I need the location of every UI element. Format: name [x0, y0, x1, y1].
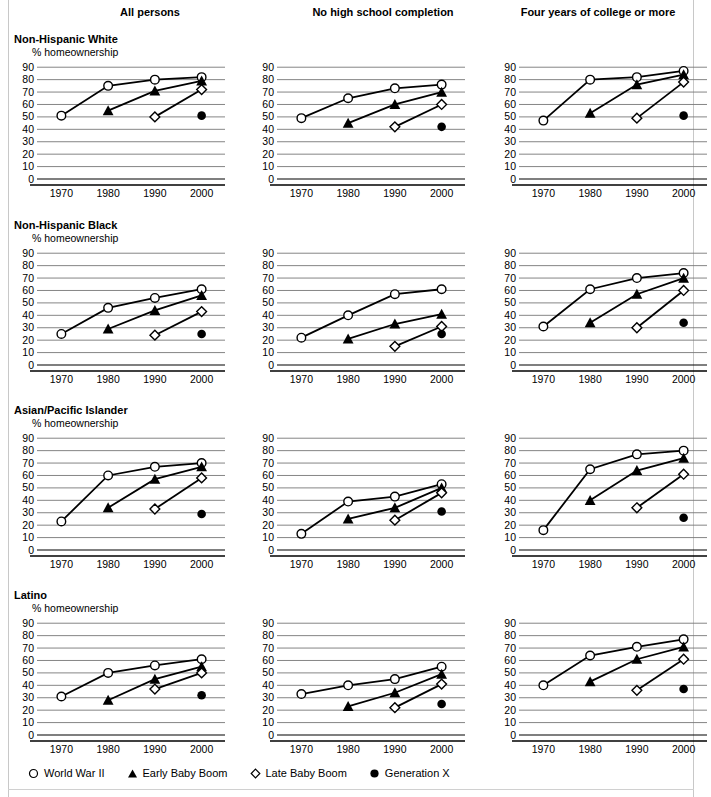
open-circle-marker	[151, 75, 160, 84]
x-tick-label: 1970	[532, 743, 556, 755]
open-circle-marker	[104, 304, 113, 313]
series-line-world-war-ii	[543, 639, 683, 685]
x-tick-label: 2000	[190, 558, 214, 570]
filled-circle-marker	[679, 513, 688, 522]
x-tick-label: 2000	[672, 373, 696, 385]
x-tick-label: 2000	[190, 743, 214, 755]
open-circle-marker	[297, 690, 306, 699]
x-tick-label: 2000	[190, 373, 214, 385]
open-circle-marker	[104, 82, 113, 91]
series-line-world-war-ii	[61, 289, 201, 334]
open-diamond-marker	[150, 330, 160, 340]
open-circle-marker	[297, 114, 306, 123]
legend-item-generation-x: Generation X	[369, 767, 450, 779]
y-tick-label: 0	[510, 544, 516, 556]
x-tick-label: 2000	[430, 558, 454, 570]
open-circle-marker	[344, 94, 353, 103]
open-circle-marker	[586, 651, 595, 660]
y-tick-label: 30	[262, 506, 274, 518]
legend-item-early-baby-boom: Early Baby Boom	[127, 767, 228, 779]
y-tick-label: 70	[262, 642, 274, 654]
panel-asian-pacific-islander-four-years-of-college-or-more: 01020304050607080901970198019902000	[490, 426, 711, 576]
y-tick-label: 10	[504, 531, 516, 543]
x-tick-label: 2000	[430, 743, 454, 755]
filled-circle-marker	[197, 111, 206, 120]
y-tick-label: 40	[22, 679, 34, 691]
y-tick-label: 70	[22, 457, 34, 469]
panel-asian-pacific-islander-no-high-school-completion: 01020304050607080901970198019902000	[248, 426, 473, 576]
filled-triangle-icon	[127, 768, 138, 779]
row-label-latino: Latino	[14, 589, 47, 601]
open-diamond-icon	[250, 768, 261, 779]
y-tick-label: 70	[22, 272, 34, 284]
y-tick-label: 30	[22, 506, 34, 518]
legend-label-late-baby-boom: Late Baby Boom	[266, 767, 347, 779]
x-tick-label: 1970	[290, 743, 314, 755]
series-line-world-war-ii	[61, 77, 201, 116]
open-circle-marker	[633, 274, 642, 283]
y-tick-label: 60	[262, 654, 274, 666]
x-tick-label: 1990	[143, 373, 167, 385]
y-tick-label: 50	[262, 296, 274, 308]
y-tick-label: 10	[22, 531, 34, 543]
x-tick-label: 1990	[383, 743, 407, 755]
series-line-world-war-ii	[301, 289, 441, 337]
y-tick-label: 50	[504, 296, 516, 308]
y-tick-label: 70	[504, 86, 516, 98]
filled-triangle-marker	[343, 118, 354, 128]
panel-non-hispanic-white-four-years-of-college-or-more: 01020304050607080901970198019902000	[490, 55, 711, 205]
y-tick-label: 30	[262, 321, 274, 333]
y-tick-label: 30	[22, 691, 34, 703]
x-tick-label: 1980	[336, 558, 360, 570]
open-circle-marker	[151, 661, 160, 670]
y-tick-label: 80	[262, 259, 274, 271]
y-tick-label: 40	[504, 679, 516, 691]
y-tick-label: 20	[262, 334, 274, 346]
x-tick-label: 1970	[290, 558, 314, 570]
column-header-four-years-of-college-or-more: Four years of college or more	[500, 6, 696, 18]
y-tick-label: 60	[262, 284, 274, 296]
x-tick-label: 1970	[50, 373, 74, 385]
open-circle-marker	[57, 111, 66, 120]
legend-item-late-baby-boom: Late Baby Boom	[250, 767, 347, 779]
y-tick-label: 10	[262, 346, 274, 358]
y-tick-label: 90	[22, 61, 34, 73]
x-tick-label: 1970	[290, 187, 314, 199]
y-tick-label: 90	[504, 432, 516, 444]
y-tick-label: 70	[504, 457, 516, 469]
x-tick-label: 1990	[383, 187, 407, 199]
y-tick-label: 80	[262, 73, 274, 85]
y-tick-label: 10	[504, 160, 516, 172]
y-tick-label: 50	[22, 481, 34, 493]
x-tick-label: 1990	[625, 373, 649, 385]
series-line-late-baby-boom	[395, 326, 442, 346]
x-tick-label: 2000	[672, 558, 696, 570]
open-circle-marker	[57, 330, 66, 339]
filled-circle-marker	[437, 700, 446, 709]
y-tick-label: 90	[22, 432, 34, 444]
row-label-asian-pacific-islander: Asian/Pacific Islander	[14, 404, 128, 416]
series-line-late-baby-boom	[395, 684, 442, 708]
x-tick-label: 1990	[143, 558, 167, 570]
series-line-early-baby-boom	[108, 81, 202, 111]
y-tick-label: 60	[504, 284, 516, 296]
open-circle-marker	[297, 333, 306, 342]
y-tick-label: 40	[504, 494, 516, 506]
filled-triangle-marker	[585, 108, 596, 118]
panel-non-hispanic-white-all-persons: 01020304050607080901970198019902000	[8, 55, 233, 205]
open-circle-marker	[151, 294, 160, 303]
y-tick-label: 20	[262, 148, 274, 160]
filled-circle-marker	[679, 111, 688, 120]
y-tick-label: 20	[22, 519, 34, 531]
x-tick-label: 1970	[50, 558, 74, 570]
panel-non-hispanic-black-no-high-school-completion: 01020304050607080901970198019902000	[248, 241, 473, 391]
y-tick-label: 10	[22, 160, 34, 172]
y-tick-label: 0	[268, 359, 274, 371]
open-diamond-marker	[197, 473, 207, 483]
y-tick-label: 70	[22, 86, 34, 98]
open-circle-marker	[586, 465, 595, 474]
x-tick-label: 1980	[96, 558, 120, 570]
series-line-late-baby-boom	[155, 478, 202, 509]
y-tick-label: 50	[504, 481, 516, 493]
y-tick-label: 10	[22, 346, 34, 358]
